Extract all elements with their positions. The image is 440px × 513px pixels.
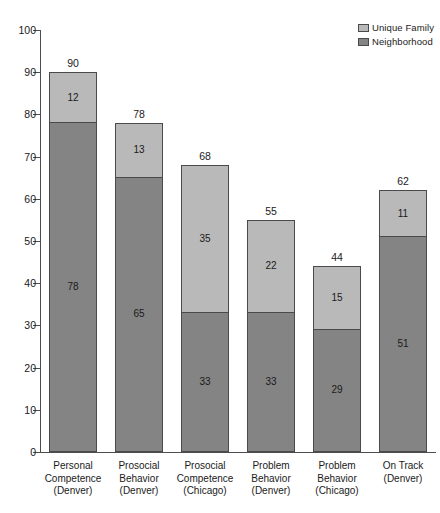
bar-segment-value: 51 — [397, 339, 408, 349]
bars-layer: 127890136578353368223355152944115162 — [40, 30, 436, 452]
y-axis-tick-label: 90 — [24, 66, 36, 78]
x-axis-category-line: (Denver) — [238, 485, 304, 498]
bar-segment-value: 13 — [133, 145, 144, 155]
bar-segment-value: 29 — [331, 385, 342, 395]
x-axis-category-line: Prosocial — [172, 460, 238, 473]
bar-segment-neighborhood[interactable]: 33 — [181, 313, 229, 452]
bar-total-label: 44 — [313, 251, 361, 263]
bar-segment-value: 15 — [331, 293, 342, 303]
bar-segment-unique-family[interactable]: 15 — [313, 266, 361, 329]
x-axis-category-line: Personal — [40, 460, 106, 473]
bar-stack: 1278 — [49, 72, 97, 452]
bar-group[interactable]: 127890 — [49, 72, 97, 452]
x-axis-category-line: Behavior — [304, 473, 370, 486]
x-axis-category-line: Problem — [238, 460, 304, 473]
bar-total-label: 55 — [247, 205, 295, 217]
x-axis-category-line: Competence — [40, 473, 106, 486]
bar-stack: 1365 — [115, 123, 163, 452]
x-axis-category-line: (Denver) — [40, 485, 106, 498]
bar-group[interactable]: 223355 — [247, 220, 295, 452]
bar-segment-value: 78 — [67, 282, 78, 292]
x-axis-category-line: (Denver) — [106, 485, 172, 498]
bar-group[interactable]: 353368 — [181, 165, 229, 452]
x-axis-category-line: On Track — [370, 460, 436, 473]
bar-segment-value: 12 — [67, 93, 78, 103]
bar-segment-neighborhood[interactable]: 33 — [247, 313, 295, 452]
x-axis-category-line: Prosocial — [106, 460, 172, 473]
y-axis-tick-label: 60 — [24, 193, 36, 205]
bar-segment-unique-family[interactable]: 22 — [247, 220, 295, 313]
y-axis-tick-label: 80 — [24, 108, 36, 120]
bar-total-label: 78 — [115, 108, 163, 120]
bar-stack: 2233 — [247, 220, 295, 452]
x-axis-category-label: ProsocialBehavior(Denver) — [106, 460, 172, 498]
bar-segment-neighborhood[interactable]: 65 — [115, 178, 163, 452]
y-axis-tick-label: 50 — [24, 235, 36, 247]
x-axis-category-label: On Track(Denver) — [370, 460, 436, 485]
y-axis-tick-label: 40 — [24, 277, 36, 289]
bar-segment-value: 33 — [265, 377, 276, 387]
x-axis-category-line: Competence — [172, 473, 238, 486]
stacked-bar-chart: Unique Family Neighborhood 0102030405060… — [0, 0, 440, 513]
bar-segment-value: 35 — [199, 234, 210, 244]
x-axis-category-label: PersonalCompetence(Denver) — [40, 460, 106, 498]
bar-segment-value: 65 — [133, 309, 144, 319]
bar-total-label: 68 — [181, 150, 229, 162]
bar-group[interactable]: 115162 — [379, 190, 427, 452]
bar-segment-neighborhood[interactable]: 51 — [379, 237, 427, 452]
bar-group[interactable]: 136578 — [115, 123, 163, 452]
x-axis-category-line: Problem — [304, 460, 370, 473]
y-axis-tick-label: 30 — [24, 319, 36, 331]
x-axis-category-line: (Chicago) — [172, 485, 238, 498]
y-axis-tick-label: 10 — [24, 404, 36, 416]
bar-segment-unique-family[interactable]: 35 — [181, 165, 229, 313]
y-axis-tick-label: 20 — [24, 362, 36, 374]
y-axis-tick-label: 100 — [18, 24, 36, 36]
bar-total-label: 62 — [379, 175, 427, 187]
bar-segment-value: 22 — [265, 261, 276, 271]
x-axis-category-label: ProsocialCompetence(Chicago) — [172, 460, 238, 498]
plot-area: 0102030405060708090100 12789013657835336… — [40, 30, 436, 452]
x-axis-labels: PersonalCompetence(Denver)ProsocialBehav… — [40, 460, 436, 510]
bar-group[interactable]: 152944 — [313, 266, 361, 452]
bar-segment-unique-family[interactable]: 12 — [49, 72, 97, 123]
bar-segment-unique-family[interactable]: 13 — [115, 123, 163, 178]
x-axis-category-line: Behavior — [106, 473, 172, 486]
bar-segment-neighborhood[interactable]: 29 — [313, 330, 361, 452]
bar-segment-neighborhood[interactable]: 78 — [49, 123, 97, 452]
x-axis-category-line: (Chicago) — [304, 485, 370, 498]
y-axis-tick-label: 70 — [24, 151, 36, 163]
y-axis-tick-label: 0 — [30, 446, 36, 458]
x-axis-category-label: ProblemBehavior(Denver) — [238, 460, 304, 498]
x-axis-line — [40, 452, 436, 453]
bar-segment-unique-family[interactable]: 11 — [379, 190, 427, 236]
bar-stack: 1529 — [313, 266, 361, 452]
bar-segment-value: 33 — [199, 377, 210, 387]
x-axis-category-line: Behavior — [238, 473, 304, 486]
bar-total-label: 90 — [49, 57, 97, 69]
x-axis-category-line: (Denver) — [370, 473, 436, 486]
bar-stack: 3533 — [181, 165, 229, 452]
x-axis-category-label: ProblemBehavior(Chicago) — [304, 460, 370, 498]
bar-segment-value: 11 — [398, 209, 408, 219]
bar-stack: 1151 — [379, 190, 427, 452]
